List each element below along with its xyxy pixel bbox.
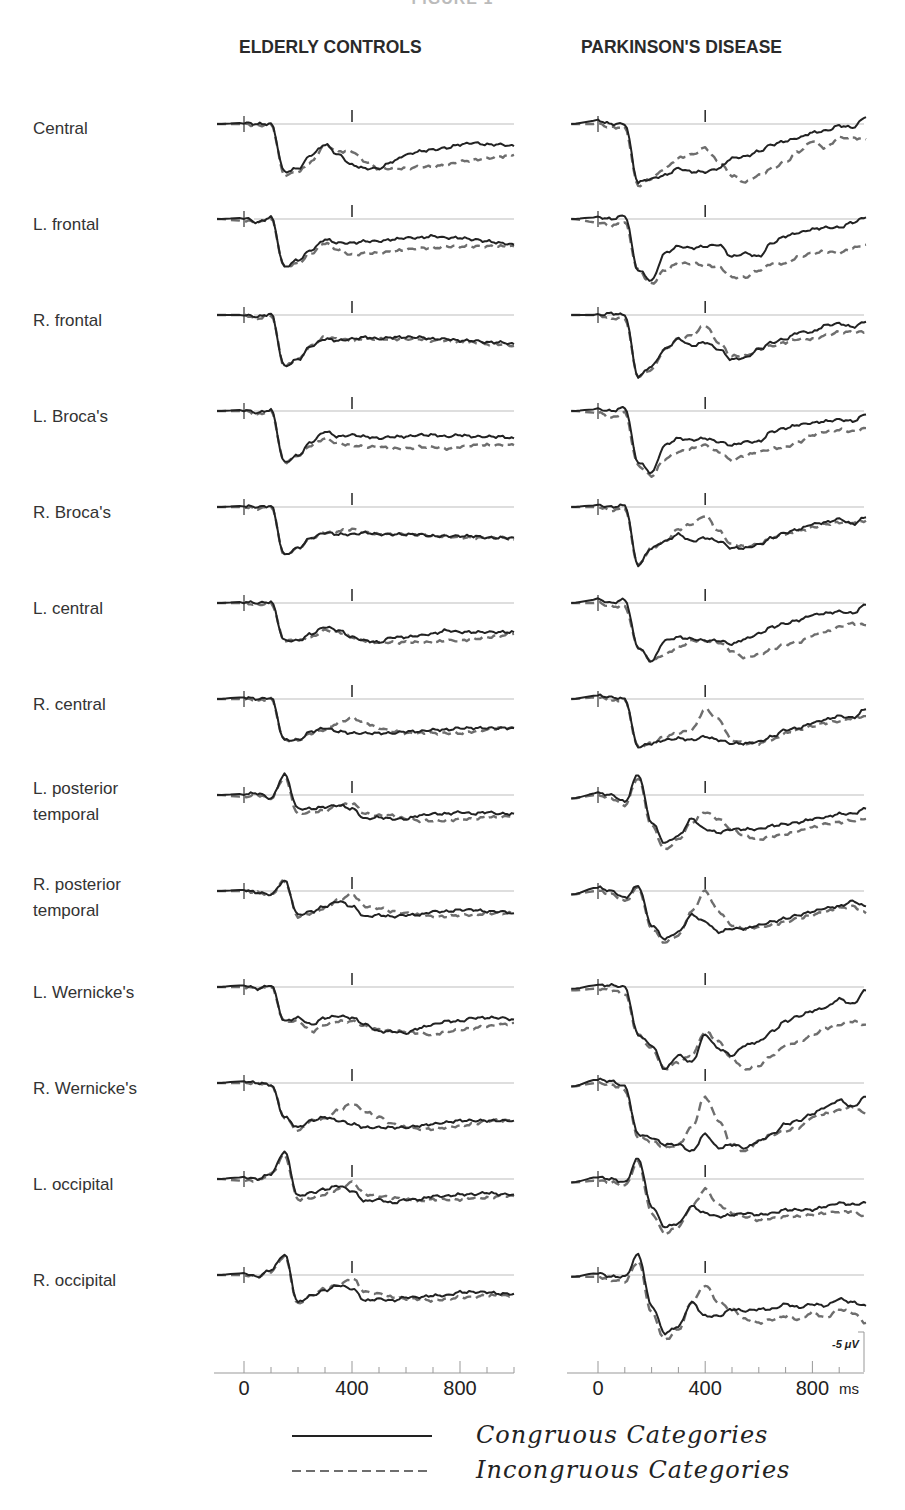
waveform-panel [217,877,514,918]
congruous-waveform [217,1081,514,1129]
congruous-waveform [571,504,866,566]
incongruous-waveform [217,698,514,741]
waveform-panel [571,589,866,662]
waveform-panel [217,589,514,644]
waveform-panel [217,1152,514,1204]
waveform-panel [217,205,514,267]
x-tick-label: 800 [796,1377,829,1400]
waveform-panel [571,397,866,477]
congruous-waveform [571,1254,866,1335]
x-axis [214,1361,514,1373]
congruous-waveform [217,216,514,266]
incongruous-waveform [571,887,866,942]
waveform-panel [571,1254,866,1340]
congruous-waveform [571,1159,866,1228]
congruous-waveform [217,1255,514,1302]
waveform-panel [217,1255,514,1304]
congruous-waveform [571,775,866,842]
erp-waveform-plot [0,0,905,1510]
congruous-waveform [217,505,514,554]
legend-label-incongruous: Incongruous Categories [476,1456,790,1484]
incongruous-waveform [217,219,514,267]
legend-line-samples [288,1430,438,1480]
congruous-waveform [571,695,866,748]
congruous-waveform [217,601,514,643]
waveform-panel [571,301,866,378]
congruous-waveform [217,1152,514,1204]
incongruous-waveform [217,779,514,823]
waveform-panel [571,877,866,943]
incongruous-waveform [571,1261,866,1340]
x-tick-label: 0 [238,1377,249,1400]
waveform-panel [217,773,514,822]
waveform-panel [217,493,514,554]
waveform-panel [217,685,514,741]
waveform-panel [571,205,866,284]
waveform-panel [571,685,866,748]
voltage-scale-label: -5 μV [832,1338,859,1350]
waveform-panel [571,775,866,849]
waveform-panel [571,973,866,1070]
x-tick-label: 400 [689,1377,722,1400]
waveform-panel [217,1069,514,1131]
congruous-waveform [217,881,514,918]
x-axis-unit-label: ms [839,1380,859,1397]
waveform-panel [571,493,866,566]
incongruous-waveform [571,989,866,1070]
incongruous-waveform [217,507,514,554]
x-tick-label: 0 [592,1377,603,1400]
congruous-waveform [571,313,866,378]
incongruous-waveform [571,411,866,477]
waveform-panel [571,110,866,186]
congruous-waveform [217,314,514,367]
waveform-panel [571,1159,866,1235]
incongruous-waveform [217,1082,514,1132]
legend-label-congruous: Congruous Categories [476,1421,768,1449]
incongruous-waveform [571,1161,866,1235]
congruous-waveform [217,697,514,741]
waveform-panel [217,973,514,1035]
incongruous-waveform [571,602,866,662]
x-axis [567,1361,864,1373]
waveform-panel [217,110,514,176]
waveform-panel [217,397,514,463]
waveform-panel [571,1069,866,1151]
incongruous-waveform [217,602,514,644]
incongruous-waveform [571,779,866,849]
incongruous-waveform [571,1082,866,1151]
congruous-waveform [217,123,514,173]
x-tick-label: 800 [443,1377,476,1400]
incongruous-waveform [217,1256,514,1304]
congruous-waveform [217,409,514,462]
incongruous-waveform [217,987,514,1035]
waveform-panel [217,301,514,367]
x-tick-label: 400 [335,1377,368,1400]
incongruous-waveform [571,314,866,377]
incongruous-waveform [217,881,514,918]
incongruous-waveform [571,507,866,565]
congruous-waveform [571,984,866,1069]
